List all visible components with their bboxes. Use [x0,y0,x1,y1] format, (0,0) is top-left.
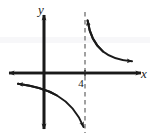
curve-lower-left-branch [18,84,84,127]
curve-lower-left-arrow-left [18,84,57,96]
x-tick-label-4: 4 [78,77,84,89]
x-axis-label: x [140,66,147,81]
coordinate-plane: y x 4 [0,0,150,137]
curve-upper-right-arrow-up [88,21,103,52]
y-axis-label: y [36,2,44,17]
graph-figure: y x 4 [0,0,150,137]
